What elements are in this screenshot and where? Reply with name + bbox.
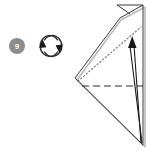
- diagram-canvas: 9: [0, 0, 151, 151]
- turn-over-symbol: [39, 36, 63, 57]
- step-number-badge: 9: [9, 38, 25, 54]
- model-outline: [75, 5, 143, 145]
- model-shadow-edges: [77, 7, 145, 147]
- step-badge-label: 9: [15, 42, 20, 51]
- origami-step-diagram: 9: [0, 0, 151, 151]
- fold-direction-arrow: [128, 36, 142, 143]
